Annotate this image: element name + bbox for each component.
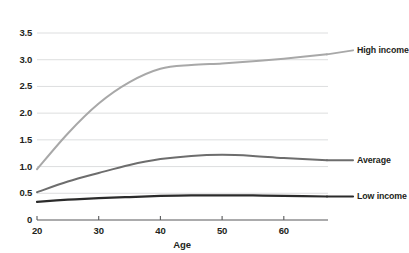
series-line-low-income [37, 195, 327, 201]
series-line-average [37, 155, 327, 192]
x-axis-title: Age [22, 239, 342, 250]
legend-label-high-income: High income [357, 45, 409, 55]
series-line-high-income [37, 54, 327, 169]
y-axis-tick-label: 0.5 [2, 187, 32, 198]
x-axis-tick-label: 50 [207, 225, 237, 236]
y-axis-tick-label: 3.5 [2, 27, 32, 38]
x-axis-tick-label: 60 [269, 225, 299, 236]
y-axis-tick-label: 1.0 [2, 161, 32, 172]
x-axis-tick-label: 30 [84, 225, 114, 236]
legend-label-average: Average [357, 155, 391, 165]
y-axis-tick-label: 2.5 [2, 80, 32, 91]
x-axis-tick-label: 40 [145, 225, 175, 236]
y-axis-tick-label: 2.0 [2, 107, 32, 118]
legend-label-low-income: Low income [357, 191, 407, 201]
y-axis-tick-label: 3.0 [2, 54, 32, 65]
x-axis-tick-label: 20 [22, 225, 52, 236]
y-axis-tick-label: 0 [2, 214, 32, 225]
series-leader-high-income [327, 50, 353, 54]
y-axis-tick-label: 1.5 [2, 134, 32, 145]
